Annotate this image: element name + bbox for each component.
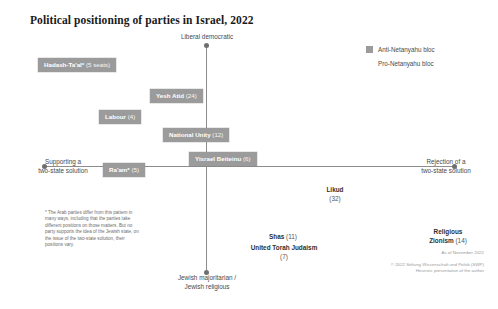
- party-seats: (11): [286, 233, 297, 240]
- party-seats: (12): [212, 131, 223, 138]
- legend-item-anti-netanyahu: Anti-Netanyahu bloc: [366, 44, 435, 55]
- party-marker-religious-zionism[interactable]: Religious Zionism (14): [410, 228, 486, 245]
- party-name: Yisrael Beiteinu: [195, 155, 241, 162]
- party-name-line1: Religious: [410, 228, 486, 237]
- party-marker-yesh-atid[interactable]: Yesh Atid (24): [150, 89, 203, 103]
- party-marker-national-unity[interactable]: National Unity (12): [163, 128, 229, 142]
- party-marker-raam[interactable]: Ra'am* (5): [103, 163, 145, 177]
- axis-label-bottom: Jewish majoritarian / Jewish religious: [144, 273, 270, 291]
- party-seats: (14): [455, 237, 466, 244]
- axis-label-right: Rejection of a two-state solution: [400, 157, 492, 175]
- party-name: United Torah Judaism: [222, 244, 346, 253]
- credit-date: As of November 2022: [442, 250, 484, 256]
- axis-endpoint-top-dot: [204, 43, 209, 48]
- chart-canvas: Political positioning of parties in Isra…: [0, 0, 498, 309]
- legend-item-label: Pro-Netanyahu bloc: [378, 60, 434, 67]
- legend-swatch-icon: [366, 46, 373, 53]
- party-name: Yesh Atid: [156, 92, 184, 99]
- party-seats: (6): [243, 155, 251, 162]
- legend-swatch-icon: [366, 60, 373, 67]
- credit-source: © 2022 Stiftung Wissenschaft und Politik…: [334, 262, 484, 274]
- party-seats: (32): [329, 195, 340, 202]
- party-name: Likud: [305, 186, 365, 195]
- axis-label-top: Liberal democratic: [146, 32, 268, 41]
- party-seats: (7): [280, 253, 288, 260]
- party-name: Hadash-Ta'al*: [44, 61, 84, 68]
- party-name-line2: Zionism: [429, 237, 454, 244]
- legend: Anti-Netanyahu bloc Pro-Netanyahu bloc: [366, 44, 435, 72]
- party-name: Shas: [269, 233, 284, 240]
- party-seats: (5 seats): [86, 61, 110, 68]
- party-marker-shas[interactable]: Shas (11): [250, 233, 316, 242]
- legend-item-label: Anti-Netanyahu bloc: [378, 46, 435, 53]
- party-marker-hadash-taal[interactable]: Hadash-Ta'al* (5 seats): [38, 58, 116, 72]
- party-name: Ra'am*: [109, 166, 130, 173]
- footnote-text: * The Arab parties differ from this patt…: [45, 210, 141, 248]
- party-marker-likud[interactable]: Likud (32): [305, 186, 365, 203]
- axis-label-left: Supporting a two-state solution: [20, 157, 106, 175]
- party-marker-labour[interactable]: Labour (4): [99, 110, 141, 124]
- party-name: National Unity: [169, 131, 211, 138]
- party-seats: (5): [131, 166, 139, 173]
- party-name: Labour: [105, 113, 126, 120]
- party-seats: (4): [128, 113, 136, 120]
- legend-item-pro-netanyahu: Pro-Netanyahu bloc: [366, 58, 435, 69]
- party-marker-united-torah-judaism[interactable]: United Torah Judaism (7): [222, 244, 346, 261]
- party-marker-yisrael-beiteinu[interactable]: Yisrael Beiteinu (6): [189, 152, 257, 166]
- page-title: Political positioning of parties in Isra…: [30, 14, 254, 26]
- party-seats: (24): [186, 92, 197, 99]
